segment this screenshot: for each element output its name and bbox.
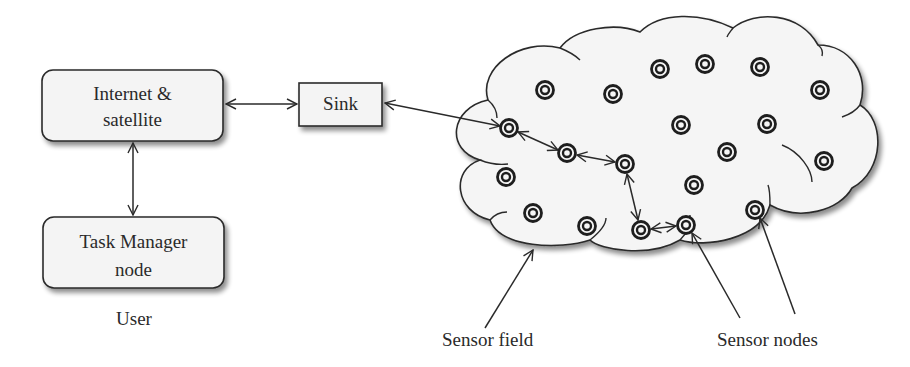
sensor-field-cloud — [456, 16, 877, 250]
sensor-node-icon[interactable] — [579, 218, 596, 235]
sensor-node-icon[interactable] — [747, 202, 764, 219]
sensor-node-icon[interactable] — [816, 153, 833, 170]
sensor-node-icon[interactable] — [525, 205, 542, 222]
sensor-node-icon[interactable] — [537, 82, 554, 99]
task-manager-label-line2: node — [115, 259, 152, 280]
sensor-node-icon[interactable] — [559, 145, 576, 162]
internet-label-line2: satellite — [103, 109, 162, 130]
sink-box[interactable]: Sink — [299, 83, 382, 126]
sensor-node-icon[interactable] — [678, 217, 695, 234]
sensor-node-icon[interactable] — [686, 177, 703, 194]
sensor-node-icon[interactable] — [719, 144, 736, 161]
task-manager-box[interactable]: Task Manager node — [43, 217, 224, 288]
sensor-node-icon[interactable] — [498, 169, 515, 186]
sensor-node-icon[interactable] — [605, 86, 622, 103]
sensor-node-icon[interactable] — [759, 116, 776, 133]
internet-label-line1: Internet & — [93, 83, 172, 104]
sink-label: Sink — [323, 93, 358, 114]
task-manager-label-line1: Task Manager — [80, 231, 189, 252]
sensor-node-icon[interactable] — [652, 61, 669, 78]
pointer-sensor-nodes-2 — [760, 218, 795, 314]
sensor-node-icon[interactable] — [812, 82, 829, 99]
user-label: User — [116, 308, 153, 329]
sensor-nodes-label: Sensor nodes — [717, 329, 818, 350]
internet-satellite-box[interactable]: Internet & satellite — [42, 70, 223, 141]
wsn-diagram: Internet & satellite Task Manager node U… — [0, 0, 910, 367]
sensor-node-icon[interactable] — [697, 56, 714, 73]
sensor-node-icon[interactable] — [752, 59, 769, 76]
sensor-node-icon[interactable] — [673, 117, 690, 134]
sensor-node-icon[interactable] — [633, 222, 650, 239]
sensor-field-label: Sensor field — [442, 329, 534, 350]
sensor-node-icon[interactable] — [617, 156, 634, 173]
pointer-sensor-field — [485, 250, 533, 328]
sensor-node-icon[interactable] — [501, 120, 518, 137]
pointer-sensor-nodes-1 — [692, 233, 740, 318]
